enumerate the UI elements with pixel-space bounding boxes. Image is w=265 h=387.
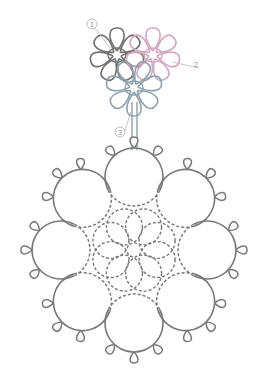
inner-dashed-petal — [126, 255, 162, 291]
outer-ring-6 — [42, 273, 111, 342]
outer-ring-5 — [105, 294, 163, 363]
label-number: 3 — [118, 128, 123, 137]
picot — [184, 158, 192, 169]
outer-ring-2 — [157, 158, 226, 227]
inner-dashed-petal — [139, 222, 175, 258]
picot — [215, 300, 226, 308]
picot — [215, 193, 226, 201]
ring-dashed-arc — [157, 273, 194, 310]
inner-dashed-petal — [93, 222, 129, 258]
inner-dashed-petal — [106, 255, 142, 291]
outer-ring-3 — [178, 221, 247, 279]
label-1: 1 — [87, 19, 110, 48]
outer-ring-4 — [157, 273, 226, 342]
label-number: 1 — [90, 20, 95, 29]
picot — [30, 269, 39, 278]
ring-dashed-arc — [108, 191, 159, 206]
picot — [229, 269, 238, 278]
outer-ring-7 — [21, 221, 90, 279]
picot — [229, 222, 238, 231]
ring-dashed-arc — [108, 294, 159, 309]
picot — [21, 246, 32, 254]
outer-ring-1 — [105, 137, 163, 206]
ring-solid-arc — [53, 274, 110, 331]
ring-solid-arc — [158, 169, 215, 226]
picot — [184, 331, 192, 342]
picot — [53, 322, 62, 331]
ring-dashed-arc — [74, 273, 111, 310]
picot — [77, 158, 85, 169]
label-2: 2 — [172, 60, 199, 69]
picot — [42, 300, 53, 308]
ring-dashed-arc — [74, 190, 111, 227]
ring-dashed-arc — [157, 190, 194, 227]
inner-dashed-petal — [126, 209, 162, 245]
ring-dashed-arc — [75, 224, 90, 275]
inner-dashed-petal — [106, 209, 142, 245]
tatting-diagram: 123 — [0, 0, 265, 387]
picot — [206, 169, 215, 178]
picot — [42, 193, 53, 201]
label-3: 3 — [115, 112, 131, 137]
picot — [153, 146, 162, 155]
label-number: 2 — [194, 60, 199, 69]
outer-ring-8 — [42, 158, 111, 227]
picot — [106, 146, 115, 155]
picot — [30, 222, 39, 231]
picot — [77, 331, 85, 342]
ring-solid-arc — [53, 169, 110, 226]
medallion — [21, 137, 247, 363]
picot — [53, 169, 62, 178]
flower-motifs — [90, 28, 179, 116]
inner-dashed-petal — [139, 242, 175, 278]
picot — [206, 322, 215, 331]
inner-dashed-petal — [93, 242, 129, 278]
ring-dashed-arc — [178, 224, 193, 275]
picot — [153, 345, 162, 354]
picot — [236, 246, 247, 254]
picot — [130, 352, 138, 363]
ring-solid-arc — [158, 274, 215, 331]
picot — [106, 345, 115, 354]
